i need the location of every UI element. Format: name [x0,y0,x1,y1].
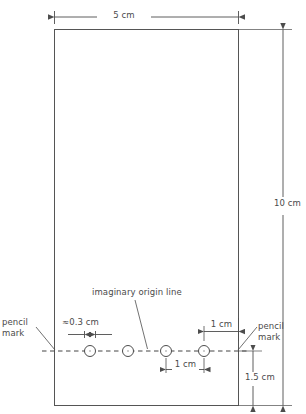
height-dimension-10cm [239,30,293,406]
baseline-height-dimension-label: 1.5 cm [245,372,275,383]
edge-margin-dimension-label: 1 cm [208,319,235,330]
pencil-mark-right-leader [238,327,257,350]
spot-spacing-dimension-label: 1 cm [172,359,199,370]
width-dimension-label: 5 cm [97,10,151,21]
imaginary-origin-line-label: imaginary origin line [92,287,182,298]
pencil-mark-right-label: pencil mark [258,321,284,342]
height-dimension-label: 10 cm [274,198,301,209]
chromatography-paper-rectangle [55,30,239,406]
pencil-mark-left-label: pencil mark [2,317,28,338]
pencil-mark-left-leader [36,327,55,350]
diagram-canvas [0,0,306,414]
chromatography-diagram: 5 cm 10 cm ≈0.3 cm 1 cm 1 cm 1.5 cm imag… [0,0,306,414]
spot-width-dimension-label: ≈0.3 cm [62,317,99,328]
